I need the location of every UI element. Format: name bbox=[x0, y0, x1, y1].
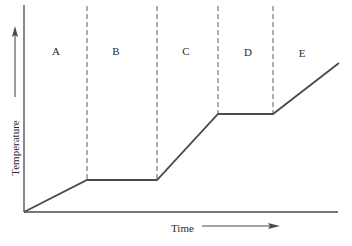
region-label-d: D bbox=[244, 46, 252, 58]
region-label-c: C bbox=[182, 45, 189, 57]
heating-curve bbox=[24, 63, 339, 212]
y-axis-label: Temperature bbox=[9, 120, 21, 175]
x-axis-label: Time bbox=[171, 222, 194, 234]
region-label-a: A bbox=[52, 45, 60, 57]
region-label-e: E bbox=[299, 47, 306, 59]
region-label-b: B bbox=[112, 45, 119, 57]
heating-curve-diagram bbox=[0, 0, 352, 246]
